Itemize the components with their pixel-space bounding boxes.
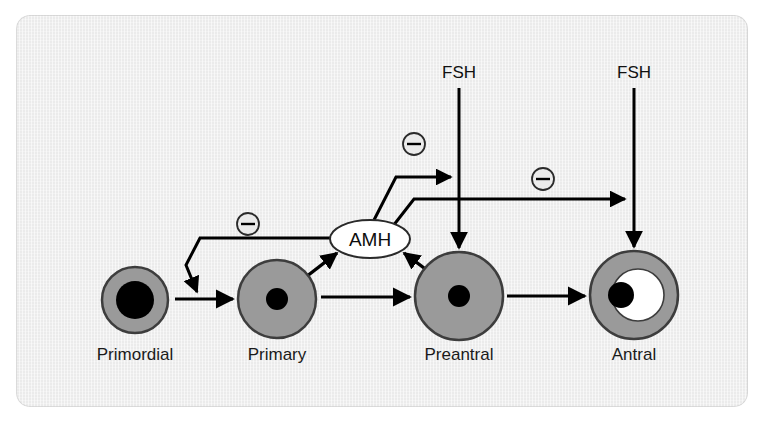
amh-node[interactable]: AMH xyxy=(330,220,410,258)
follicle-primary[interactable] xyxy=(238,260,316,338)
fsh-label-1: FSH xyxy=(442,63,476,82)
oocyte xyxy=(116,281,154,319)
stage-label-preantral: Preantral xyxy=(425,345,494,364)
oocyte xyxy=(266,288,288,310)
stage-label-primordial: Primordial xyxy=(97,345,174,364)
stage-label-antral: Antral xyxy=(612,345,656,364)
follicle-development-diagram: AMH FSH FSH Primordial Primary Preantral… xyxy=(0,0,764,424)
amh-label: AMH xyxy=(349,229,391,250)
oocyte xyxy=(608,282,634,308)
inhibition-symbol-3 xyxy=(532,168,554,190)
inhibition-symbol-1 xyxy=(237,213,259,235)
follicle-antral[interactable] xyxy=(590,251,678,339)
inhibition-symbol-2 xyxy=(403,133,425,155)
figure-root: AMH FSH FSH Primordial Primary Preantral… xyxy=(0,0,764,424)
follicle-primordial[interactable] xyxy=(102,267,168,333)
follicle-preantral[interactable] xyxy=(415,252,503,340)
stage-label-primary: Primary xyxy=(248,345,307,364)
fsh-label-2: FSH xyxy=(617,63,651,82)
oocyte xyxy=(448,285,470,307)
amh-inhibits-fsh-antral-arrow xyxy=(393,199,625,226)
development-arrow-group xyxy=(175,296,585,299)
